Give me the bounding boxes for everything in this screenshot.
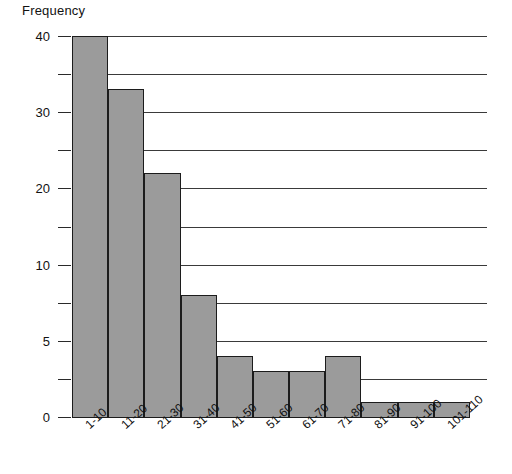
y-axis-title: Frequency bbox=[22, 3, 85, 18]
bar bbox=[108, 89, 144, 418]
y-axis-tick-label: 0 bbox=[10, 411, 50, 424]
y-axis-tick bbox=[58, 112, 71, 113]
frequency-histogram: Frequency 05102030401-1011-2021-3031-404… bbox=[0, 0, 512, 474]
y-axis-tick bbox=[58, 303, 71, 304]
bar bbox=[181, 295, 217, 418]
y-axis-tick bbox=[58, 417, 71, 418]
gridline bbox=[72, 74, 487, 75]
y-axis-tick-label: 30 bbox=[10, 106, 50, 119]
y-axis-tick bbox=[58, 74, 71, 75]
plot-area bbox=[72, 36, 487, 417]
y-axis-tick bbox=[58, 265, 71, 266]
y-axis-tick-label: 40 bbox=[10, 30, 50, 43]
y-axis-tick-label: 20 bbox=[10, 182, 50, 195]
y-axis-tick bbox=[58, 379, 71, 380]
y-axis-tick bbox=[58, 188, 71, 189]
y-axis-tick bbox=[58, 36, 71, 37]
bar bbox=[72, 36, 108, 418]
y-axis-tick-label: 10 bbox=[10, 259, 50, 272]
y-axis-tick bbox=[58, 341, 71, 342]
y-axis-tick bbox=[58, 150, 71, 151]
gridline bbox=[72, 36, 487, 37]
y-axis-tick-label: 5 bbox=[10, 335, 50, 348]
y-axis-tick bbox=[58, 227, 71, 228]
bar bbox=[144, 173, 180, 418]
